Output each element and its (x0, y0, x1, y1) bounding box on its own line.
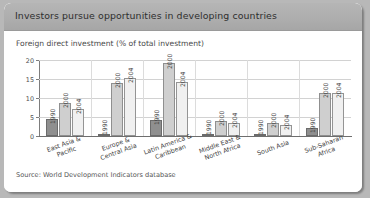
chart-panel: Foreign direct investment (% of total in… (4, 31, 362, 192)
x-axis-category-label: South Asia (245, 135, 300, 161)
bar-2004 (124, 78, 136, 136)
bar-2004 (176, 82, 188, 136)
bar-group: 199020002004 (299, 60, 351, 136)
chart-subtitle: Foreign direct investment (% of total in… (16, 39, 204, 48)
bar-2000 (163, 63, 175, 136)
bar-year-label: 2004 (127, 68, 134, 83)
chart-figure: Investors pursue opportunities in develo… (4, 3, 362, 192)
bar-year-label: 2004 (231, 112, 238, 127)
bar-group: 199020002004 (195, 60, 247, 136)
bar-2004 (332, 93, 344, 136)
bar-year-label: 2000 (270, 113, 277, 128)
group-separator (299, 60, 300, 136)
bar-year-label: 2000 (166, 54, 173, 69)
y-axis-tick-label: 10 (12, 95, 34, 103)
bar-year-label: 1990 (49, 109, 56, 124)
figure-title: Investors pursue opportunities in develo… (15, 10, 277, 21)
group-separator (143, 60, 144, 136)
bar-group: 199020002004 (247, 60, 299, 136)
bar-2000 (111, 83, 123, 136)
bar-year-label: 1990 (101, 120, 108, 135)
plot-area: 1990200020041990200020041990200020041990… (39, 60, 351, 136)
y-axis-tick-label: 5 (12, 114, 34, 122)
bar-year-label: 2004 (179, 71, 186, 86)
chart-source: Source: World Development Indicators dat… (16, 171, 176, 179)
bar-group: 199020002004 (91, 60, 143, 136)
bar-year-label: 2004 (283, 114, 290, 129)
bar-year-label: 2000 (62, 92, 69, 107)
bar-year-label: 2004 (75, 99, 82, 114)
bar-year-label: 2000 (114, 72, 121, 87)
figure-title-bar: Investors pursue opportunities in develo… (4, 3, 362, 31)
bar-group: 199020002004 (143, 60, 195, 136)
bar-year-label: 1990 (309, 118, 316, 133)
bar-group: 199020002004 (39, 60, 91, 136)
group-separator (195, 60, 196, 136)
bar-year-label: 1990 (257, 120, 264, 135)
group-separator (91, 60, 92, 136)
group-separator (247, 60, 248, 136)
bar-year-label: 2000 (322, 83, 329, 98)
bar-year-label: 1990 (205, 120, 212, 135)
y-axis-tick-label: 15 (12, 76, 34, 84)
y-axis-tick-label: 20 (12, 57, 34, 65)
y-axis-tick-label: 0 (12, 133, 34, 141)
bar-2000 (319, 93, 331, 136)
bar-year-label: 2004 (335, 83, 342, 98)
bar-year-label: 1990 (153, 110, 160, 125)
bar-year-label: 2000 (218, 111, 225, 126)
